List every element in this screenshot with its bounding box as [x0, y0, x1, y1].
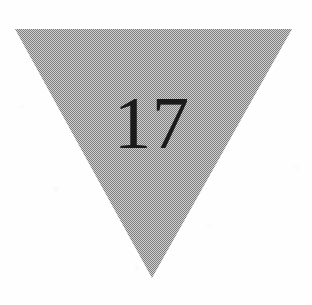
figure-canvas: 17	[0, 0, 312, 305]
triangle-fill	[15, 29, 292, 278]
triangle-shape-layer	[0, 0, 312, 305]
